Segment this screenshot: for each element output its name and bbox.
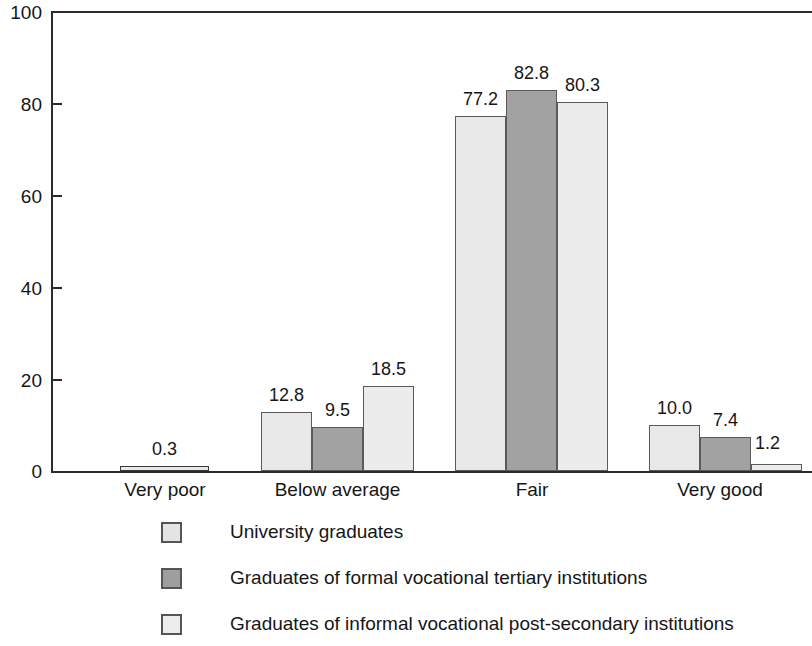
x-axis-category-label-fair: Fair [487,479,577,500]
bar-fair-informal-vocational-post-secondary [557,102,608,471]
y-axis-tick-mark-40 [51,287,62,289]
bar-below-average-informal-vocational-post-secondary [363,386,414,471]
y-axis-tick-label-80: 80 [0,95,42,114]
bar-very-good-university-graduates [649,425,700,471]
bar-below-average-university-graduates [261,412,312,471]
legend-label-university-graduates: University graduates [230,520,403,544]
bar-value-very-good-formal-vocational-tertiary: 7.4 [700,411,751,429]
bar-value-very-good-university-graduates: 10.0 [649,399,700,417]
bar-value-below-average-formal-vocational-tertiary: 9.5 [312,401,363,419]
bar-very-poor-university-graduates [120,466,209,471]
bar-value-below-average-university-graduates: 12.8 [261,386,312,404]
bar-below-average-formal-vocational-tertiary [312,427,363,471]
plot-top-border [51,11,812,13]
x-axis-category-label-below-average: Below average [267,479,408,500]
bar-chart-figure: 100 80 60 40 20 0 0.3 Very poor 12.8 9.5… [0,0,812,646]
y-axis-tick-label-60: 60 [0,187,42,206]
bar-value-below-average-informal-vocational-post-secondary: 18.5 [363,360,414,378]
bar-value-fair-university-graduates: 77.2 [455,90,506,108]
legend-label-informal-vocational-post-secondary: Graduates of informal vocational post-se… [230,612,734,636]
bar-value-fair-formal-vocational-tertiary: 82.8 [506,64,557,82]
x-axis-category-label-very-good: Very good [655,479,785,500]
bar-value-very-poor-university-graduates: 0.3 [120,440,209,458]
legend-label-formal-vocational-tertiary: Graduates of formal vocational tertiary … [230,566,647,590]
x-axis-line [51,471,812,473]
x-axis-category-label-very-poor: Very poor [95,479,235,500]
legend-swatch-icon-informal-vocational-post-secondary [161,614,182,635]
y-axis-tick-mark-80 [51,103,62,105]
legend-swatch-icon-formal-vocational-tertiary [161,568,182,589]
legend-swatch-icon-university-graduates [161,522,182,543]
bar-fair-university-graduates [455,116,506,471]
y-axis-tick-label-0: 0 [0,462,42,481]
y-axis-line [51,11,53,473]
y-axis-tick-label-20: 20 [0,371,42,390]
y-axis-tick-label-40: 40 [0,279,42,298]
y-axis-tick-mark-20 [51,379,62,381]
bar-value-very-good-informal-vocational-post-secondary: 1.2 [742,434,793,452]
bar-fair-formal-vocational-tertiary [506,90,557,471]
bar-value-fair-informal-vocational-post-secondary: 80.3 [557,76,608,94]
bar-very-good-informal-vocational-post-secondary [751,464,802,471]
y-axis-tick-label-100: 100 [0,3,42,22]
y-axis-tick-mark-60 [51,195,62,197]
